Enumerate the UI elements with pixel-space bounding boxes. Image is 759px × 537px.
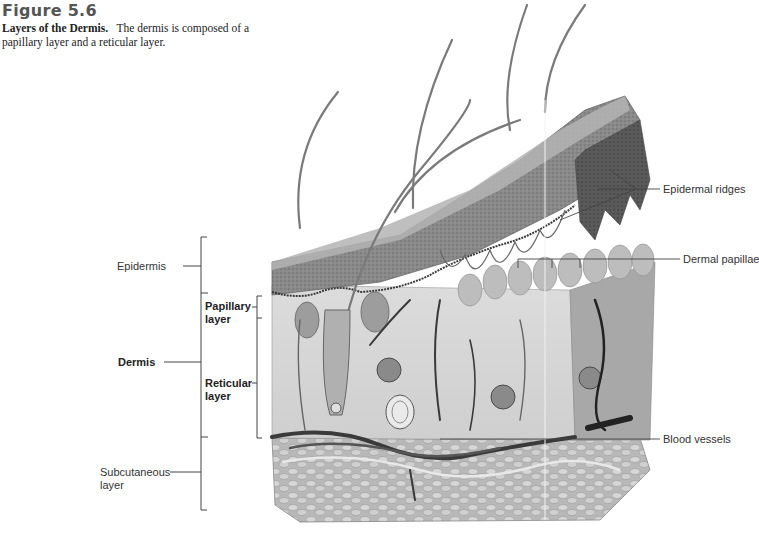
label-subcutaneous-line2: layer	[100, 479, 124, 491]
label-epidermal-ridges: Epidermal ridges	[663, 183, 746, 195]
label-papillary-line2: layer	[205, 313, 231, 325]
layer-bracket-dermis	[252, 296, 262, 438]
label-subcutaneous-line1: Subcutaneous	[100, 466, 170, 478]
label-papillary-line1: Papillary	[205, 300, 251, 312]
label-blood-vessels: Blood vessels	[663, 433, 731, 445]
label-dermis: Dermis	[118, 356, 155, 368]
lamellated-corpuscle	[386, 395, 414, 429]
label-dermal-papillae: Dermal papillae	[683, 253, 759, 265]
label-reticular-line1: Reticular	[205, 377, 252, 389]
layer-bracket-main	[164, 237, 208, 510]
label-reticular-line2: layer	[205, 390, 231, 402]
label-epidermis: Epidermis	[117, 260, 166, 272]
subcutaneous-fat	[272, 438, 650, 522]
